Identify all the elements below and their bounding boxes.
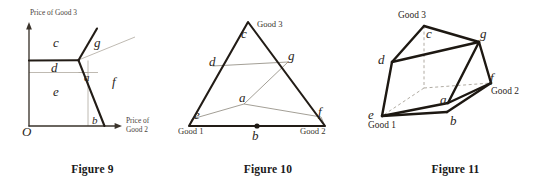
figure-9-origin-label: O: [22, 124, 32, 139]
figure-10-region-label-a: a: [239, 90, 246, 105]
figure-10-region-label-g: g: [288, 48, 295, 63]
figure-11-region-label-e: e: [368, 107, 374, 122]
figure-11-vertex-label-good-2: Good 2: [491, 86, 519, 96]
figure-10-region-label-e: e: [194, 107, 200, 122]
figure-11-region-label-b: b: [450, 113, 457, 128]
figure-9-caption: Figure 9: [0, 163, 185, 175]
figure-9-region-label-e: e: [53, 84, 59, 99]
figure-9-region-label-c: c: [53, 35, 59, 50]
figure-9-region-label-a: a: [84, 71, 90, 83]
figure-11-region-label-f: f: [490, 70, 496, 85]
figure-11-region-label-d: d: [378, 52, 385, 67]
figure-9-region-label-f: f: [112, 74, 118, 89]
figure-11: Good 3 Good 1 Good 2 c d e a b f g Figur…: [360, 0, 551, 190]
figure-9-region-label-g: g: [94, 35, 101, 50]
figure-9-region-label-b: b: [92, 114, 98, 126]
figure-11-region-label-a: a: [440, 92, 447, 107]
figure-10-vertex-label-good-3: Good 3: [257, 19, 283, 29]
figure-panel: Price of Good 3 Price of Good 2 O c d e …: [0, 0, 551, 190]
figure-9: Price of Good 3 Price of Good 2 O c d e …: [0, 0, 185, 190]
figure-11-region-label-g: g: [480, 26, 487, 41]
figure-10-caption: Figure 10: [178, 163, 358, 175]
figure-11-vertex-label-good-3: Good 3: [398, 10, 426, 20]
figure-9-axes: [26, 22, 122, 129]
figure-9-drawing: Price of Good 3 Price of Good 2 O c d e …: [0, 0, 185, 160]
figure-10-region-label-b: b: [252, 128, 259, 143]
figure-11-region-label-c: c: [426, 26, 432, 41]
figure-10-faint-lines: [189, 62, 325, 126]
figure-11-drawing: Good 3 Good 1 Good 2 c d e a b f g: [360, 0, 551, 160]
figure-11-caption: Figure 11: [360, 163, 551, 175]
figure-9-y-axis-label: Price of Good 3: [30, 8, 77, 17]
figure-10-triangle: [189, 22, 325, 126]
figure-10: Good 3 Good 1 Good 2 c d e a b f g Figur…: [178, 0, 358, 190]
figure-9-x-axis-label-line1: Price of: [126, 116, 150, 125]
figure-10-region-label-d: d: [209, 54, 216, 69]
figure-10-drawing: Good 3 Good 1 Good 2 c d e a b f g: [178, 0, 358, 160]
figure-9-region-label-d: d: [51, 60, 58, 75]
figure-10-vertex-label-good-1: Good 1: [178, 126, 204, 136]
figure-9-faint-lines: [29, 37, 135, 126]
figure-11-edges: [382, 26, 491, 116]
figure-9-x-axis-label-line2: Good 2: [126, 125, 148, 134]
figure-10-region-label-f: f: [318, 104, 324, 119]
figure-10-region-label-c: c: [241, 26, 247, 41]
figure-10-vertex-label-good-2: Good 2: [300, 126, 326, 136]
